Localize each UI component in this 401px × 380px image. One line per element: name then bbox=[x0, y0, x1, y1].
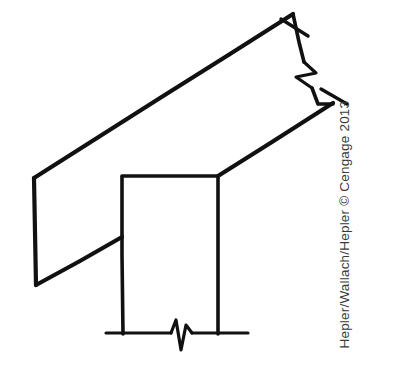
board-bottom-edge-left bbox=[36, 237, 122, 285]
break-symbol-board bbox=[296, 62, 316, 88]
sloped-board bbox=[34, 14, 347, 285]
board-bottom-edge-right bbox=[218, 103, 333, 176]
ground-line bbox=[106, 320, 248, 350]
break-symbol-ground bbox=[171, 320, 192, 350]
post-left-edge bbox=[122, 177, 123, 334]
vertical-post bbox=[122, 176, 218, 334]
copyright-credit: Hepler/Wallach/Hepler © Cengage 2013 bbox=[337, 59, 352, 349]
figure-root: Hepler/Wallach/Hepler © Cengage 2013 bbox=[0, 0, 401, 380]
board-right-end-upper-edge bbox=[293, 14, 304, 62]
board-left-end-edge bbox=[34, 178, 36, 285]
